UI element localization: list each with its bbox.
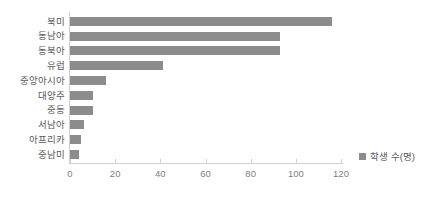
bar[interactable] [70,120,84,129]
bar-row [70,88,341,103]
category-label: 대양주 [0,88,65,103]
legend-swatch-icon [359,153,366,160]
x-tick-mark [206,159,207,163]
x-tick-label: 100 [288,168,304,180]
x-tick-mark [70,159,71,163]
x-tick-label: 0 [67,168,72,180]
category-label: 유럽 [0,58,65,73]
x-axis-tick-labels: 020406080100120 [70,168,341,182]
bar[interactable] [70,91,93,100]
category-label: 중앙아시아 [0,73,65,88]
bar-row [70,73,341,88]
category-label: 서남아 [0,118,65,133]
bar-chart: 북미 동남아 동북아 유럽 중앙아시아 대양주 중동 서남아 아프리카 중남미 … [0,0,439,201]
bar[interactable] [70,76,106,85]
bar[interactable] [70,17,332,26]
category-label: 동북아 [0,44,65,59]
bar[interactable] [70,135,81,144]
x-tick-label: 20 [110,168,121,180]
x-tick-mark [296,159,297,163]
y-axis-line [69,12,70,164]
category-axis-labels: 북미 동남아 동북아 유럽 중앙아시아 대양주 중동 서남아 아프리카 중남미 [0,14,65,162]
x-tick-mark [160,159,161,163]
legend-label: 학생 수(명) [370,152,415,162]
bar[interactable] [70,61,163,70]
bar[interactable] [70,106,93,115]
x-tick-label: 80 [245,168,256,180]
bar-row [70,103,341,118]
bar-row [70,14,341,29]
legend[interactable]: 학생 수(명) [359,152,415,162]
bar[interactable] [70,32,280,41]
bar[interactable] [70,46,280,55]
category-label: 북미 [0,14,65,29]
category-label: 동남아 [0,29,65,44]
bar[interactable] [70,150,79,159]
bar-series [70,14,341,162]
x-tick-label: 40 [155,168,166,180]
category-label: 아프리카 [0,132,65,147]
x-tick-mark [115,159,116,163]
bar-row [70,29,341,44]
plot-area [70,14,341,162]
x-tick-mark [251,159,252,163]
bar-row [70,44,341,59]
category-label: 중남미 [0,147,65,162]
category-label: 중동 [0,103,65,118]
bar-row [70,58,341,73]
x-axis-line [69,163,343,164]
bar-row [70,132,341,147]
x-tick-label: 120 [333,168,349,180]
x-tick-mark [341,159,342,163]
x-tick-label: 60 [200,168,211,180]
bar-row [70,118,341,133]
